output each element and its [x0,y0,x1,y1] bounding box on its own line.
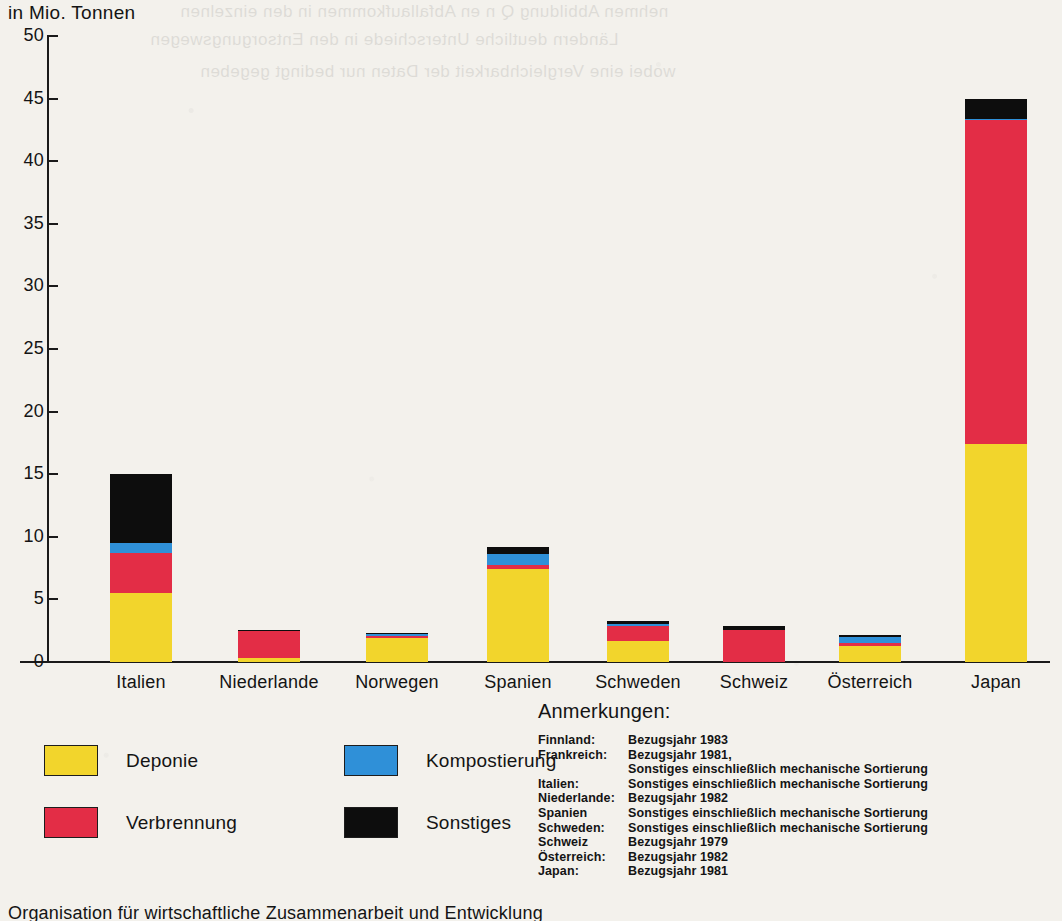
note-value: Bezugsjahr 1981, [628,748,1058,763]
note-key: Schweden: [538,821,628,836]
notes-list: Finnland:Bezugsjahr 1983Frankreich:Bezug… [538,733,1058,879]
bar-norwegen [366,633,428,662]
legend-label-deponie: Deponie [126,750,198,772]
y-tick-label-50: 50 [4,26,44,44]
stacked-bar-chart: in Mio. Tonnen 05101520253035404550 Ital… [0,0,1062,921]
note-row: Österreich:Bezugsjahr 1982 [538,850,1058,865]
bar-segment-italien-verbrennung [110,553,172,593]
y-tick-label-30: 30 [4,276,44,294]
bar-segment-italien-sonstiges [110,474,172,543]
y-tick-label-45: 45 [4,89,44,107]
note-key: Finnland: [538,733,628,748]
bar-italien [110,474,172,662]
bar-österreich [839,635,901,662]
legend-swatch-verbrennung [44,807,98,838]
bar-segment-spanien-deponie [487,569,549,662]
y-tick-label-0: 0 [4,652,44,670]
y-tick-label-5: 5 [4,589,44,607]
note-value: Sonstiges einschließlich mechanische Sor… [628,806,1058,821]
note-key: Österreich: [538,850,628,865]
bar-segment-spanien-kompostierung [487,554,549,565]
bar-segment-niederlande-verbrennung [238,631,300,657]
note-row: SchweizBezugsjahr 1979 [538,835,1058,850]
bar-segment-spanien-sonstiges [487,547,549,554]
note-value: Sonstiges einschließlich mechanische Sor… [628,762,1058,777]
bar-japan [965,99,1027,662]
notes-heading: Anmerkungen: [538,700,670,723]
note-row: Frankreich:Bezugsjahr 1981, [538,748,1058,763]
bar-segment-schweiz-verbrennung [723,630,785,662]
note-value: Bezugsjahr 1982 [628,850,1058,865]
legend-swatch-sonstiges [344,807,398,838]
y-tick-label-35: 35 [4,214,44,232]
note-row: Schweden:Sonstiges einschließlich mechan… [538,821,1058,836]
bar-segment-japan-deponie [965,444,1027,662]
y-tick-label-40: 40 [4,151,44,169]
note-key: Spanien [538,806,628,821]
bar-segment-norwegen-deponie [366,638,428,662]
legend-swatch-kompostierung [344,745,398,776]
legend-label-verbrennung: Verbrennung [126,812,237,834]
note-row: Niederlande:Bezugsjahr 1982 [538,791,1058,806]
note-row: Finnland:Bezugsjahr 1983 [538,733,1058,748]
legend-item-verbrennung: Verbrennung [44,807,237,838]
note-key: Japan: [538,864,628,879]
note-key: Schweiz [538,835,628,850]
note-value: Bezugsjahr 1982 [628,791,1058,806]
bar-niederlande [238,630,300,662]
note-value: Bezugsjahr 1979 [628,835,1058,850]
source-footnote: Organisation für wirtschaftliche Zusamme… [8,903,1048,921]
note-key: Italien: [538,777,628,792]
note-key: Niederlande: [538,791,628,806]
bar-segment-italien-deponie [110,593,172,662]
note-value: Sonstiges einschließlich mechanische Sor… [628,777,1058,792]
bar-segment-schweden-verbrennung [607,626,669,640]
bar-segment-niederlande-deponie [238,658,300,662]
y-tick-label-20: 20 [4,402,44,420]
bar-schweiz [723,626,785,662]
note-row: SpanienSonstiges einschließlich mechanis… [538,806,1058,821]
bar-spanien [487,547,549,662]
y-tick-label-10: 10 [4,527,44,545]
y-tick-label-15: 15 [4,464,44,482]
note-row: Italien:Sonstiges einschließlich mechani… [538,777,1058,792]
bar-segment-italien-kompostierung [110,543,172,553]
bar-segment-österreich-deponie [839,646,901,662]
y-axis-title: in Mio. Tonnen [8,2,135,24]
note-value: Sonstiges einschließlich mechanische Sor… [628,821,1058,836]
note-key: Frankreich: [538,748,628,763]
category-label-japan: Japan [916,672,1062,693]
note-value: Bezugsjahr 1983 [628,733,1058,748]
bar-segment-schweden-deponie [607,641,669,662]
y-tick-label-25: 25 [4,339,44,357]
legend-item-sonstiges: Sonstiges [344,807,511,838]
note-row: Japan:Bezugsjahr 1981 [538,864,1058,879]
bar-segment-japan-verbrennung [965,120,1027,444]
note-key [538,762,628,777]
note-row: Sonstiges einschließlich mechanische Sor… [538,762,1058,777]
legend-swatch-deponie [44,745,98,776]
legend-item-deponie: Deponie [44,745,198,776]
legend-label-kompostierung: Kompostierung [426,750,556,772]
legend-label-sonstiges: Sonstiges [426,812,511,834]
bar-schweden [607,621,669,662]
bar-segment-japan-sonstiges [965,99,1027,119]
note-value: Bezugsjahr 1981 [628,864,1058,879]
plot-area [49,36,1050,662]
legend-item-kompostierung: Kompostierung [344,745,556,776]
